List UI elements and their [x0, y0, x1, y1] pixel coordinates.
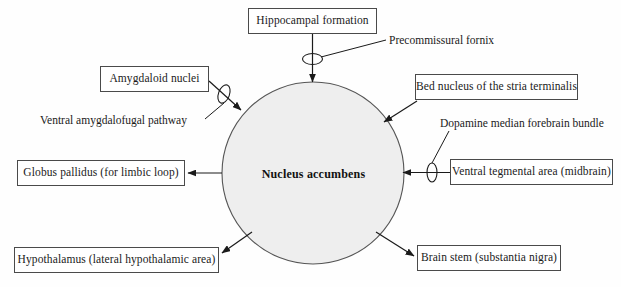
- nucleus-accumbens-connectivity-diagram: Nucleus accumbens Hippocampal formation …: [0, 0, 621, 287]
- nucleus-accumbens-label: Nucleus accumbens: [248, 167, 379, 182]
- node-amygdaloid-nuclei-label: Amygdaloid nuclei: [109, 73, 199, 85]
- leader-precommissural-fornix: [321, 40, 386, 57]
- arrow-bed-nucleus-to-hub: [384, 101, 417, 122]
- node-globus-pallidus-label: Globus pallidus (for limbic loop): [23, 167, 178, 179]
- node-ventral-tegmental-area[interactable]: Ventral tegmental area (midbrain): [450, 159, 613, 185]
- node-brain-stem[interactable]: Brain stem (substantia nigra): [417, 245, 561, 271]
- node-bed-nucleus-stria-terminalis-label: Bed nucleus of the stria terminalis: [416, 81, 577, 93]
- arrow-hub-to-brain-stem: [376, 232, 414, 256]
- arrow-hub-to-hypothalamus: [222, 232, 252, 253]
- node-hypothalamus-label: Hypothalamus (lateral hypothalamic area): [18, 254, 216, 266]
- node-hippocampal-formation-label: Hippocampal formation: [256, 15, 368, 27]
- node-hypothalamus[interactable]: Hypothalamus (lateral hypothalamic area): [14, 247, 219, 273]
- leader-dopamine-bundle: [432, 131, 449, 163]
- node-globus-pallidus[interactable]: Globus pallidus (for limbic loop): [17, 160, 185, 186]
- leader-ventral-amygdalofugal: [205, 103, 224, 119]
- label-precommissural-fornix: Precommissural fornix: [389, 35, 494, 47]
- label-dopamine-median-forebrain-bundle: Dopamine median forebrain bundle: [440, 118, 604, 130]
- connector-layer: [0, 0, 621, 287]
- node-ventral-tegmental-area-label: Ventral tegmental area (midbrain): [452, 166, 611, 178]
- node-amygdaloid-nuclei[interactable]: Amygdaloid nuclei: [100, 66, 209, 92]
- node-bed-nucleus-stria-terminalis[interactable]: Bed nucleus of the stria terminalis: [415, 74, 578, 100]
- node-hippocampal-formation[interactable]: Hippocampal formation: [248, 8, 377, 34]
- node-brain-stem-label: Brain stem (substantia nigra): [421, 252, 557, 264]
- label-ventral-amygdalofugal-pathway: Ventral amygdalofugal pathway: [40, 115, 187, 127]
